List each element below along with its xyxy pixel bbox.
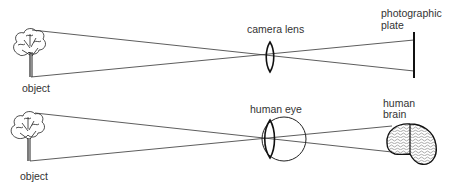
human-brain-icon [387,124,436,164]
human-brain-label-line2: brain [383,109,406,120]
bottom-rays [30,113,392,161]
top-tree-icon [14,29,46,77]
camera-lens-label: camera lens [247,24,304,35]
human-eye-icon [262,117,306,161]
photographic-plate-label-line1: photographic [381,8,442,19]
top-rays [31,30,414,77]
top-object-label: object [22,83,50,94]
bottom-tree-icon [11,112,44,161]
bottom-object-label: object [20,171,48,182]
photographic-plate-label-line2: plate [381,20,404,31]
camera-lens-icon [266,42,274,72]
human-eye-label: human eye [250,104,302,115]
